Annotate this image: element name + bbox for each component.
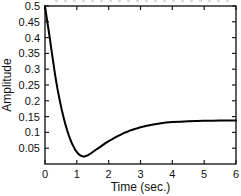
x-tick-label: 4 xyxy=(169,168,175,180)
x-tick-label: 3 xyxy=(137,168,143,180)
x-tick-label: 6 xyxy=(233,168,239,180)
x-tick-label: 2 xyxy=(106,168,112,180)
y-tick-label: 0.15 xyxy=(19,111,40,123)
y-tick-label: 0.35 xyxy=(19,47,40,59)
line-chart: 01234560.050.10.150.20.250.30.350.40.450… xyxy=(0,0,241,196)
y-tick-label: 0.25 xyxy=(19,79,40,91)
x-tick-label: 0 xyxy=(42,168,48,180)
y-tick-label: 0.3 xyxy=(25,63,40,75)
x-tick-label: 5 xyxy=(201,168,207,180)
response-curve xyxy=(45,6,236,156)
y-tick-label: 0.45 xyxy=(19,16,40,28)
x-tick-label: 1 xyxy=(74,168,80,180)
y-tick-label: 0.4 xyxy=(25,32,40,44)
y-tick-label: 0.05 xyxy=(19,142,40,154)
y-axis-title: Amplitude xyxy=(0,45,14,125)
y-tick-label: 0.2 xyxy=(25,95,40,107)
y-tick-label: 0.1 xyxy=(25,126,40,138)
figure: 01234560.050.10.150.20.250.30.350.40.450… xyxy=(0,0,241,196)
y-tick-label: 0.5 xyxy=(25,0,40,12)
x-axis-title: Time (sec.) xyxy=(45,180,236,194)
plot-box xyxy=(45,6,236,164)
